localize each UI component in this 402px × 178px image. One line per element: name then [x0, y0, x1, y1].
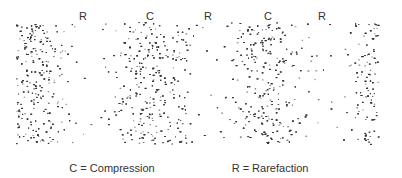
label-rarefaction-2: R [204, 11, 212, 22]
legend-rarefaction: R = Rarefaction [232, 162, 309, 174]
legend-compression: C = Compression [69, 162, 154, 174]
label-rarefaction-1: R [79, 11, 87, 22]
label-rarefaction-3: R [318, 11, 326, 22]
particle-density-field [0, 0, 402, 178]
label-compression-1: C [146, 11, 154, 22]
label-compression-2: C [264, 11, 272, 22]
